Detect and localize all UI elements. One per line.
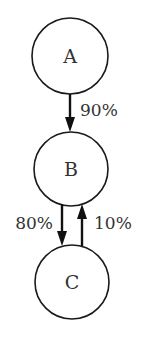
transition-diagram: A 90% B 80% 10% C bbox=[0, 0, 142, 337]
edge-a-to-b-label: 90% bbox=[80, 100, 118, 120]
edge-c-to-b-label: 10% bbox=[94, 213, 132, 233]
edge-b-to-c-label: 80% bbox=[15, 213, 53, 233]
node-b: B bbox=[34, 132, 108, 206]
node-c: C bbox=[35, 245, 109, 319]
edge-a-to-b: 90% bbox=[65, 94, 118, 132]
node-c-label: C bbox=[65, 271, 80, 293]
arrow-down-icon bbox=[65, 117, 75, 132]
node-a-label: A bbox=[62, 45, 77, 67]
arrow-down-icon bbox=[57, 231, 67, 246]
arrow-up-icon bbox=[77, 204, 87, 219]
edge-c-to-b: 10% bbox=[77, 204, 132, 246]
edge-b-to-c: 80% bbox=[15, 204, 67, 246]
node-b-label: B bbox=[64, 158, 78, 180]
node-a: A bbox=[32, 18, 108, 94]
